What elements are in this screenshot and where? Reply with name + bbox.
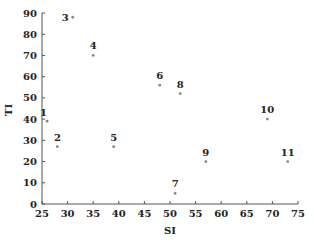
point-marker	[71, 16, 74, 19]
point-marker	[46, 120, 49, 123]
y-tick-label: 20	[23, 156, 37, 167]
point-marker	[92, 54, 95, 57]
point-label: 7	[172, 178, 179, 189]
y-axis-label: TI	[3, 104, 14, 116]
x-axis-label: SI	[164, 225, 176, 236]
y-tick-label: 60	[23, 71, 37, 82]
data-point: 5	[110, 132, 117, 148]
data-point: 1	[40, 107, 48, 122]
y-tick-label: 0	[30, 199, 37, 210]
y-tick-label: 30	[23, 135, 37, 146]
point-label: 4	[90, 40, 97, 51]
data-point: 7	[172, 178, 179, 194]
point-marker	[158, 84, 161, 87]
point-marker	[286, 160, 289, 163]
x-tick-label: 25	[35, 208, 49, 219]
scatter-chart: 2530354045505560657075010203040506070809…	[0, 0, 314, 244]
data-point: 2	[54, 132, 61, 148]
point-label: 10	[260, 104, 274, 115]
y-tick-label: 70	[23, 50, 37, 61]
y-tick-label: 50	[23, 92, 37, 103]
x-tick-label: 55	[189, 208, 203, 219]
point-label: 2	[54, 132, 61, 143]
data-point: 9	[202, 147, 209, 163]
point-label: 3	[62, 12, 69, 23]
x-tick-label: 75	[291, 208, 305, 219]
data-point: 10	[260, 104, 274, 120]
point-marker	[179, 92, 182, 95]
x-tick-label: 35	[86, 208, 100, 219]
data-point: 4	[90, 40, 97, 56]
point-marker	[112, 145, 115, 148]
point-marker	[266, 118, 269, 121]
point-label: 8	[177, 79, 184, 90]
point-marker	[56, 145, 59, 148]
point-marker	[204, 160, 207, 163]
data-point: 3	[62, 12, 74, 23]
point-label: 6	[156, 70, 163, 81]
point-label: 9	[202, 147, 209, 158]
x-tick-label: 50	[163, 208, 177, 219]
x-tick-label: 60	[214, 208, 228, 219]
data-points: 1234567891011	[40, 12, 295, 195]
y-tick-label: 80	[23, 29, 37, 40]
y-tick-label: 40	[23, 114, 37, 125]
data-point: 6	[156, 70, 163, 86]
point-marker	[174, 192, 177, 195]
x-tick-label: 70	[265, 208, 279, 219]
x-tick-label: 30	[61, 208, 75, 219]
point-label: 1	[40, 107, 47, 118]
data-point: 8	[177, 79, 184, 95]
x-tick-label: 65	[240, 208, 254, 219]
y-tick-label: 10	[23, 177, 37, 188]
data-point: 11	[281, 147, 295, 163]
x-tick-label: 40	[112, 208, 126, 219]
y-tick-label: 90	[23, 8, 37, 19]
point-label: 11	[281, 147, 295, 158]
x-tick-label: 45	[137, 208, 151, 219]
point-label: 5	[110, 132, 117, 143]
